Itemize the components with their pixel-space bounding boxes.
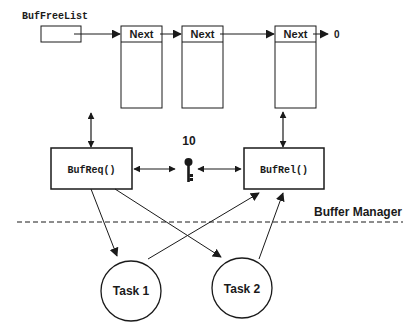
node-next-label: Next	[191, 28, 215, 40]
node-next-label: Next	[284, 28, 308, 40]
task1-to-rel-arrow	[148, 193, 259, 259]
boundary-label: Buffer Manager	[314, 205, 402, 219]
semaphore-count: 10	[182, 134, 196, 148]
buf-req-box: BufReq()	[51, 148, 132, 189]
buffer-manager-diagram: BufFreeList Next Next Next 0 BufReq() Bu…	[0, 0, 415, 330]
task-2-label: Task 2	[224, 282, 261, 296]
buf-req-label: BufReq()	[67, 165, 115, 176]
task2-to-rel-arrow	[259, 193, 283, 259]
list-node-3: Next	[275, 26, 316, 108]
task-1-label: Task 1	[113, 284, 150, 298]
node-next-label: Next	[130, 28, 154, 40]
free-list-label: BufFreeList	[22, 11, 88, 22]
list-node-2: Next	[182, 26, 223, 108]
task-1-node: Task 1	[101, 261, 161, 321]
task-2-node: Task 2	[212, 258, 272, 318]
list-terminator: 0	[334, 29, 340, 40]
buf-rel-box: BufRel()	[244, 148, 324, 189]
key-icon	[185, 158, 194, 182]
buf-rel-label: BufRel()	[260, 165, 308, 176]
list-node-1: Next	[121, 26, 162, 108]
